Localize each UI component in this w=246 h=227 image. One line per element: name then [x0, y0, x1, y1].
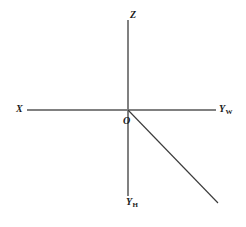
y-w-axis-label-base: Y — [219, 103, 225, 114]
origin-label: O — [123, 116, 130, 126]
z-axis-label: Z — [130, 10, 136, 20]
y-h-axis-label-subscript: H — [133, 201, 138, 209]
y-w-axis-label-subscript: W — [226, 108, 233, 116]
diagonal-ray-line — [128, 110, 218, 203]
y-w-axis-label: YW — [219, 104, 233, 116]
coordinate-axes-figure: X YW Z YH O — [0, 0, 246, 227]
y-h-axis-label: YH — [126, 197, 138, 209]
y-h-axis-label-base: Y — [126, 196, 132, 207]
origin-label-text: O — [123, 115, 130, 126]
axes-drawing-canvas — [0, 0, 246, 227]
z-axis-label-text: Z — [130, 9, 136, 20]
x-axis-label: X — [16, 104, 23, 114]
x-axis-label-text: X — [16, 103, 23, 114]
